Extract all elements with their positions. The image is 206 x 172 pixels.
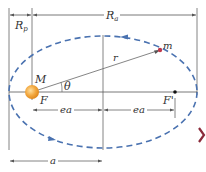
sun-marker [25,85,39,99]
planet-label: m [163,40,172,51]
angle-arc [61,82,62,92]
arrowhead-icon [33,109,37,112]
empty-focus-marker [173,90,177,94]
planet-marker [158,48,162,52]
rp-label: Rp [14,19,28,33]
central-mass-label: M [34,73,47,86]
arrowhead-icon [98,109,102,112]
radius-label: r [113,52,119,63]
arrowhead-icon [104,109,108,112]
arrowhead-icon [98,160,102,163]
radius-line [32,50,160,92]
orbit-diagram: Rp Ra r θ m M F F' ea ea [0,0,206,172]
focus-label: F [39,94,48,107]
arrowhead-icon [27,14,31,17]
semi-major-label: a [50,155,56,166]
theta-label: θ [64,80,71,93]
orbit-direction-arrow-icon [48,136,56,141]
empty-focus-label: F' [162,94,174,107]
arrowhead-icon [192,14,196,17]
ea-right-label: ea [133,104,145,115]
arrowhead-icon [10,160,14,163]
chevron-right-icon [199,128,204,142]
arrowhead-icon [10,14,14,17]
orbit-direction-arrow-icon [120,35,128,40]
arrowhead-icon [170,109,174,112]
arrowhead-icon [33,14,37,17]
ea-left-label: ea [60,104,72,115]
